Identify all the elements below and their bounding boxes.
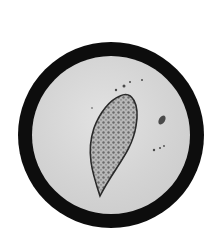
microscope-field [32, 56, 190, 214]
microscope-field-ring [18, 42, 204, 228]
egg-specimen [32, 56, 190, 214]
